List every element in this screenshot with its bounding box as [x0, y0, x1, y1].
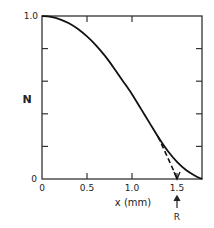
x-axis-label: x (mm) — [115, 197, 151, 208]
r-marker-label: R — [174, 212, 180, 222]
curve-n-of-x — [42, 16, 202, 179]
x-tick-label-1-5: 1.5 — [170, 183, 184, 193]
y-tick-label-1: 1.0 — [24, 11, 39, 21]
r-marker-arrow-icon — [174, 196, 180, 208]
x-tick-label-1-0: 1.0 — [125, 183, 140, 193]
plot-frame — [42, 16, 202, 179]
y-ticks-right — [196, 49, 202, 147]
chart: 1.0 0 N 0 0.5 1.0 1.5 x (mm) R — [0, 0, 214, 228]
x-ticks-bottom — [87, 173, 177, 179]
x-ticks-top — [87, 16, 132, 22]
y-tick-label-0: 0 — [31, 174, 37, 184]
x-tick-label-0: 0 — [39, 183, 45, 193]
y-ticks-left — [42, 49, 48, 147]
y-axis-label: N — [22, 93, 31, 106]
x-tick-label-0-5: 0.5 — [80, 183, 94, 193]
